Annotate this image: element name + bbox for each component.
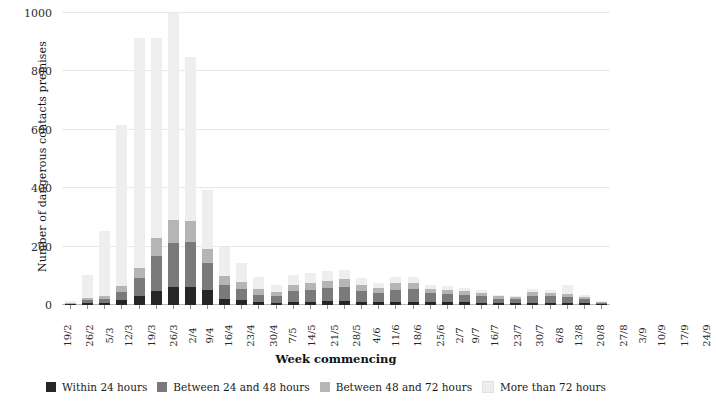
bar-segment: [253, 295, 264, 303]
bar-segment: [288, 275, 299, 285]
x-axis-title: Week commencing: [62, 352, 610, 366]
x-axis-tick: [387, 305, 404, 310]
bar-stack: [476, 290, 487, 305]
bar-column[interactable]: [148, 13, 165, 305]
x-axis-tick-labels: 19/226/25/312/319/326/32/49/416/423/430/…: [62, 311, 610, 347]
bar-column[interactable]: [216, 13, 233, 305]
bar-stack: [99, 231, 110, 305]
x-axis-tick: [405, 305, 422, 310]
legend-label: Within 24 hours: [62, 381, 147, 393]
bar-column[interactable]: [473, 13, 490, 305]
x-axis-tick-label: 23/4: [245, 311, 267, 347]
bar-segment: [322, 271, 333, 280]
bar-stack: [493, 295, 504, 306]
legend-item[interactable]: Within 24 hours: [46, 381, 147, 393]
legend-label: More than 72 hours: [500, 381, 606, 393]
bar-column[interactable]: [593, 13, 610, 305]
bar-column[interactable]: [559, 13, 576, 305]
bar-column[interactable]: [113, 13, 130, 305]
y-axis-tick-label: 200: [0, 240, 52, 253]
bar-segment: [202, 190, 213, 249]
bar-segment: [236, 289, 247, 300]
x-axis-tick: [336, 305, 353, 310]
bar-column[interactable]: [456, 13, 473, 305]
bar-segment: [116, 125, 127, 286]
bar-segment: [305, 283, 316, 290]
x-axis-tick-label: 16/7: [489, 311, 511, 347]
bar-segment: [425, 293, 436, 302]
x-axis-tick-label: 23/7: [512, 311, 534, 347]
x-axis-tick: [422, 305, 439, 310]
bar-column[interactable]: [62, 13, 79, 305]
bar-segment: [562, 285, 573, 295]
bar-segment: [219, 285, 230, 299]
bar-segment: [151, 256, 162, 291]
bar-segment: [202, 290, 213, 305]
bar-column[interactable]: [387, 13, 404, 305]
x-axis-tick: [148, 305, 165, 310]
bar-column[interactable]: [524, 13, 541, 305]
x-axis-tick: [542, 305, 559, 310]
bar-column[interactable]: [353, 13, 370, 305]
x-axis-tick: [370, 305, 387, 310]
x-axis-tick-label: 18/6: [412, 311, 434, 347]
bar-column[interactable]: [302, 13, 319, 305]
x-axis-tick-label: 5/3: [107, 311, 123, 347]
bar-column[interactable]: [233, 13, 250, 305]
x-axis-tick: [439, 305, 456, 310]
bar-column[interactable]: [336, 13, 353, 305]
x-axis-tick-label: 7/5: [290, 311, 306, 347]
x-axis-tick: [319, 305, 336, 310]
bar-column[interactable]: [439, 13, 456, 305]
x-axis-tick-label: 19/2: [62, 311, 84, 347]
x-axis-ticks: [62, 305, 610, 310]
x-axis-tick: [131, 305, 148, 310]
x-axis-tick: [113, 305, 130, 310]
x-axis-tick-label: 3/9: [640, 311, 656, 347]
bar-segment: [288, 291, 299, 302]
bar-stack: [82, 275, 93, 305]
bar-column[interactable]: [96, 13, 113, 305]
x-axis-tick: [62, 305, 79, 310]
x-axis-tick-label: 17/9: [679, 311, 701, 347]
bar-column[interactable]: [542, 13, 559, 305]
legend-item[interactable]: Between 24 and 48 hours: [157, 381, 309, 393]
bar-stack: [373, 283, 384, 305]
bar-column[interactable]: [285, 13, 302, 305]
y-axis-tick-label: 0: [0, 299, 52, 312]
x-axis-tick: [96, 305, 113, 310]
bar-column[interactable]: [319, 13, 336, 305]
bar-stack: [305, 273, 316, 305]
legend-label: Between 24 and 48 hours: [173, 381, 309, 393]
x-axis-tick-label: 13/8: [573, 311, 595, 347]
bar-column[interactable]: [165, 13, 182, 305]
bar-stack: [151, 38, 162, 305]
bar-column[interactable]: [268, 13, 285, 305]
bar-segment: [442, 294, 453, 302]
x-axis-tick: [216, 305, 233, 310]
legend-item[interactable]: More than 72 hours: [482, 381, 606, 393]
bar-column[interactable]: [405, 13, 422, 305]
bar-column[interactable]: [199, 13, 216, 305]
bar-stack: [425, 285, 436, 305]
bar-column[interactable]: [131, 13, 148, 305]
x-axis-tick: [268, 305, 285, 310]
bar-segment: [527, 296, 538, 303]
bar-column[interactable]: [370, 13, 387, 305]
bar-column[interactable]: [79, 13, 96, 305]
legend-swatch-icon: [320, 382, 330, 392]
bar-column[interactable]: [490, 13, 507, 305]
bar-segment: [168, 243, 179, 287]
bar-column[interactable]: [422, 13, 439, 305]
x-axis-tick-label: 9/4: [207, 311, 223, 347]
bar-column[interactable]: [182, 13, 199, 305]
bar-column[interactable]: [250, 13, 267, 305]
bar-stack: [390, 277, 401, 305]
bar-column[interactable]: [576, 13, 593, 305]
x-axis-tick: [507, 305, 524, 310]
bar-stack: [116, 125, 127, 305]
bar-column[interactable]: [507, 13, 524, 305]
legend-item[interactable]: Between 48 and 72 hours: [320, 381, 472, 393]
bar-segment: [390, 290, 401, 302]
